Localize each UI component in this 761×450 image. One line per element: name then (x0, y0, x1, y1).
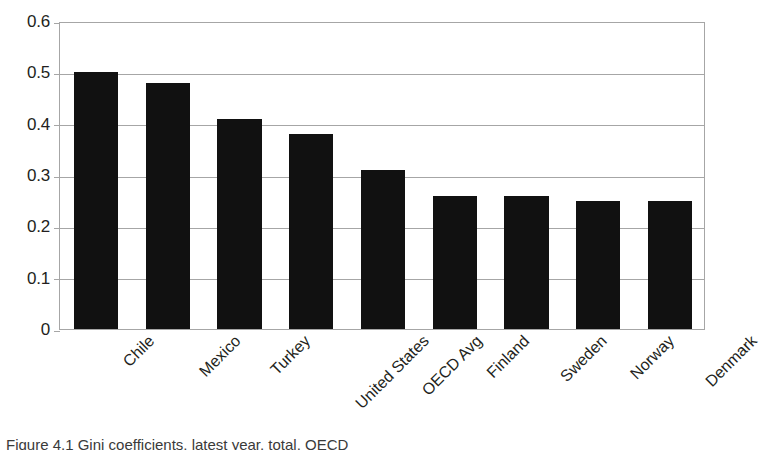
bar (433, 196, 477, 329)
y-tick-label: 0.4 (4, 116, 50, 133)
bar (289, 134, 333, 329)
bar (74, 72, 118, 329)
y-tick-label: 0.2 (4, 218, 50, 235)
bar (217, 119, 261, 329)
x-tick-label: Finland (483, 332, 533, 382)
x-tick-label: Mexico (196, 332, 245, 381)
y-tick-label: 0.5 (4, 64, 50, 81)
bar (146, 83, 190, 329)
bar-series (60, 23, 704, 329)
bar (361, 170, 405, 329)
x-tick-label: Norway (627, 332, 678, 383)
x-tick-label: Chile (120, 332, 159, 371)
figure-caption: Figure 4.1 Gini coefficients, latest yea… (6, 436, 711, 450)
x-axis: ChileMexicoTurkeyUnited StatesOECD AvgFi… (59, 332, 705, 432)
y-tick-label: 0 (4, 321, 50, 338)
x-tick-label: Turkey (267, 332, 314, 379)
y-tick-label: 0.1 (4, 270, 50, 287)
x-tick-label: Sweden (557, 332, 611, 386)
x-tick-label: United States (352, 332, 433, 413)
plot-area (59, 22, 705, 330)
bar (648, 201, 692, 329)
bar (504, 196, 548, 329)
bar (576, 201, 620, 329)
y-tick-label: 0.3 (4, 167, 50, 184)
y-tick-label: 0.6 (4, 13, 50, 30)
